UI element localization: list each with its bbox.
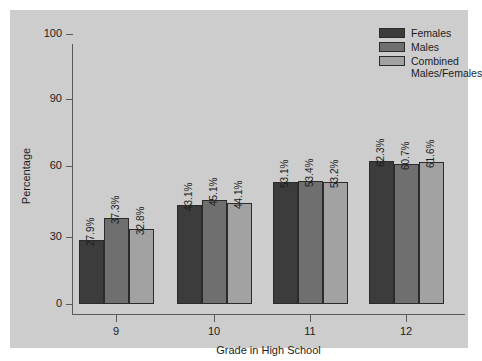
- y-tick-label-wrap: 90: [10, 93, 62, 104]
- bar-value-label: 27.9%: [86, 217, 96, 245]
- bar-value-label: 37.3%: [111, 196, 121, 224]
- legend-label: Females: [411, 27, 451, 39]
- chart-panel: 0306090100 9101112 27.9%37.3%32.8%43.1%4…: [10, 10, 468, 348]
- bar-value-label: 53.4%: [305, 159, 315, 187]
- bar-value-label: 45.1%: [209, 178, 219, 206]
- y-axis-line: [72, 44, 73, 315]
- y-tick-label-wrap: 60: [10, 160, 62, 171]
- y-tick-label: 0: [16, 298, 62, 309]
- x-tick-mark: [406, 315, 407, 322]
- bar: [129, 229, 154, 304]
- x-tick-mark: [116, 315, 117, 322]
- bar: [104, 218, 129, 304]
- y-tick-mark: [66, 99, 73, 100]
- bar-value-label: 53.2%: [330, 159, 340, 187]
- legend-label: Combined Males/Females: [411, 55, 482, 79]
- x-tick-mark: [214, 315, 215, 322]
- y-tick-label-wrap: 30: [10, 231, 62, 242]
- y-axis-title: Percentage: [20, 126, 32, 226]
- bar: [273, 182, 298, 304]
- bar-value-label: 53.1%: [280, 160, 290, 188]
- x-tick-label: 11: [290, 325, 330, 337]
- y-tick-mark: [66, 304, 73, 305]
- legend-swatch: [379, 42, 405, 52]
- bar: [419, 162, 444, 304]
- x-axis-title: Grade in High School: [72, 344, 465, 356]
- legend-item: Males: [379, 41, 479, 54]
- legend-item: Combined Males/Females: [379, 55, 479, 68]
- bar-value-label: 60.7%: [401, 142, 411, 170]
- bar: [177, 205, 202, 304]
- bar: [298, 181, 323, 304]
- bar-value-label: 32.8%: [136, 206, 146, 234]
- bar: [369, 161, 394, 304]
- y-tick-label-wrap: 0: [10, 298, 62, 309]
- bar: [79, 240, 104, 304]
- y-tick-label: 90: [16, 93, 62, 104]
- x-tick-label: 9: [96, 325, 136, 337]
- chart-legend: FemalesMalesCombined Males/Females: [379, 27, 479, 69]
- y-tick-label-wrap: 100: [10, 28, 62, 39]
- legend-swatch: [379, 56, 405, 66]
- x-tick-label: 10: [194, 325, 234, 337]
- bar: [227, 203, 252, 304]
- bar: [323, 182, 348, 304]
- chart-figure: 0306090100 9101112 27.9%37.3%32.8%43.1%4…: [0, 0, 482, 361]
- x-tick-mark: [310, 315, 311, 322]
- legend-swatch: [379, 28, 405, 38]
- bar: [202, 200, 227, 304]
- bar-value-label: 61.6%: [426, 140, 436, 168]
- bar-value-label: 62.3%: [376, 138, 386, 166]
- y-tick-mark: [66, 166, 73, 167]
- bar: [394, 164, 419, 304]
- y-tick-label: 30: [16, 231, 62, 242]
- y-tick-mark: [66, 237, 73, 238]
- x-tick-label: 12: [386, 325, 426, 337]
- legend-item: Females: [379, 27, 479, 40]
- y-tick-label: 100: [16, 28, 62, 39]
- bar-value-label: 43.1%: [184, 183, 194, 211]
- legend-label: Males: [411, 41, 439, 53]
- y-tick-mark: [66, 34, 73, 35]
- bar-value-label: 44.1%: [234, 180, 244, 208]
